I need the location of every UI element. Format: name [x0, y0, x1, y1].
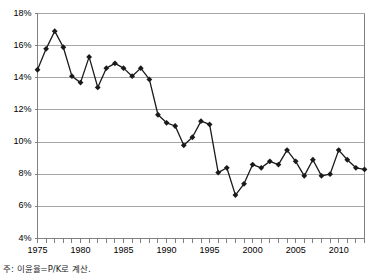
y-axis-tick-label: 14%	[0, 72, 32, 82]
x-axis-tick-label: 2000	[233, 245, 273, 255]
profit-rate-line-chart	[0, 0, 371, 258]
x-axis-tick-label: 1995	[190, 245, 230, 255]
data-point-marker	[207, 121, 213, 127]
x-axis-tick-label: 2010	[319, 245, 359, 255]
y-axis-tick-label: 12%	[0, 104, 32, 114]
data-point-marker	[35, 67, 41, 73]
chart-caption-note: 주: 이윤율=P/K로 계산.	[3, 262, 91, 274]
data-series-line	[38, 31, 365, 195]
y-axis-tick-label: 4%	[0, 233, 32, 243]
y-axis-tick-label: 6%	[0, 200, 32, 210]
chart-figure: 4%6%8%10%12%14%16%18% 197519801985199019…	[0, 0, 371, 277]
x-axis-tick-label: 2005	[276, 245, 316, 255]
data-point-marker	[52, 28, 58, 34]
data-point-marker	[362, 166, 368, 172]
data-point-marker	[43, 46, 49, 52]
chart-plot-area: 4%6%8%10%12%14%16%18% 197519801985199019…	[0, 0, 371, 258]
data-point-marker	[112, 60, 118, 66]
data-point-marker	[276, 162, 282, 168]
y-axis-tick-label: 18%	[0, 8, 32, 18]
y-axis-tick-label: 10%	[0, 136, 32, 146]
data-point-marker	[250, 162, 256, 168]
data-point-marker	[224, 165, 230, 171]
data-point-marker	[95, 85, 101, 91]
x-axis-tick-label: 1990	[147, 245, 187, 255]
data-point-marker	[172, 123, 178, 129]
data-point-marker	[198, 118, 204, 124]
data-point-marker	[310, 157, 316, 163]
x-axis-tick-label: 1980	[61, 245, 101, 255]
data-point-marker	[86, 54, 92, 60]
x-axis-tick-label: 1975	[18, 245, 58, 255]
y-axis-tick-label: 8%	[0, 168, 32, 178]
y-axis-tick-label: 16%	[0, 40, 32, 50]
data-point-marker	[327, 171, 333, 177]
data-point-marker	[103, 65, 109, 71]
x-axis-tick-label: 1985	[104, 245, 144, 255]
